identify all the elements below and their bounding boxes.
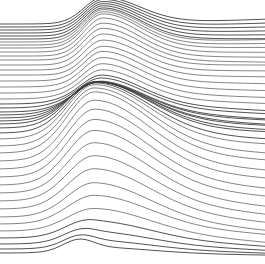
wave-figure-container [0, 0, 265, 264]
ridgeline-wave-plot [0, 0, 265, 264]
